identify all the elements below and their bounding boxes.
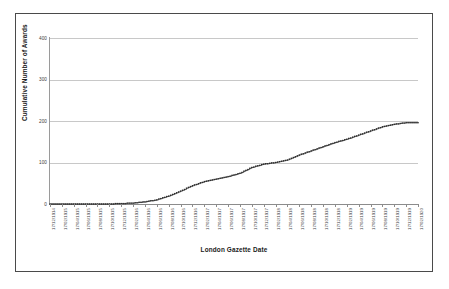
x-axis-tick — [133, 204, 134, 207]
x-axis-tick — [62, 204, 63, 207]
x-axis-tick — [192, 204, 193, 207]
x-axis-tick — [323, 204, 324, 207]
x-axis-tick — [371, 204, 372, 207]
x-axis-tick — [335, 204, 336, 207]
x-tick-label: 17/08/1918 — [313, 208, 318, 230]
x-tick-label: 17/04/1917 — [218, 208, 223, 230]
x-axis-tick — [121, 204, 122, 207]
x-tick-label: 17/02/1916 — [135, 208, 140, 230]
x-axis-tick — [228, 204, 229, 207]
x-tick-label: 17/02/1917 — [206, 208, 211, 230]
x-tick-label: 17/04/1915 — [76, 208, 81, 230]
x-tick-label: 17/10/1915 — [111, 208, 116, 230]
x-axis-tick — [204, 204, 205, 207]
x-tick-label: 17/06/1916 — [159, 208, 164, 230]
x-axis-tick — [418, 204, 419, 207]
x-tick-label: 17/10/1919 — [396, 208, 401, 230]
x-axis-tick — [299, 204, 300, 207]
x-axis-tick — [216, 204, 217, 207]
x-tick-label: 17/04/1919 — [360, 208, 365, 230]
x-axis-tick — [394, 204, 395, 207]
x-axis-tick — [347, 204, 348, 207]
x-axis-tick — [169, 204, 170, 207]
x-axis-tick — [97, 204, 98, 207]
x-axis-title: London Gazette Date — [50, 246, 418, 253]
x-tick-label: 17/04/1918 — [289, 208, 294, 230]
x-tick-label: 17/10/1918 — [325, 208, 330, 230]
x-tick-label: 17/06/1919 — [372, 208, 377, 230]
x-axis-tick — [264, 204, 265, 207]
x-axis-tick — [181, 204, 182, 207]
x-tick-label: 17/10/1916 — [182, 208, 187, 230]
x-axis-tick — [311, 204, 312, 207]
x-tick-label: 17/12/1915 — [123, 208, 128, 230]
x-tick-label: 17/02/1915 — [64, 208, 69, 230]
x-tick-label: 17/12/1917 — [265, 208, 270, 230]
x-tick-label: 17/08/1916 — [171, 208, 176, 230]
x-tick-label: 17/12/1919 — [408, 208, 413, 230]
x-axis-tick — [382, 204, 383, 207]
x-tick-label: 17/08/1917 — [242, 208, 247, 230]
x-tick-label: 17/08/1915 — [99, 208, 104, 230]
x-axis-tick — [157, 204, 158, 207]
x-tick-label: 17/12/1916 — [194, 208, 199, 230]
x-axis-tick — [287, 204, 288, 207]
x-tick-label: 17/12/1914 — [52, 208, 57, 230]
x-tick-label: 17/02/1920 — [420, 208, 425, 230]
x-axis-tick — [406, 204, 407, 207]
x-axis-tick — [74, 204, 75, 207]
chart-figure: 400 300 200 100 0 17/12/191417/02/191517… — [0, 0, 449, 289]
x-tick-label: 17/06/1918 — [301, 208, 306, 230]
y-axis-title: Cumulative Number of Awards — [21, 24, 28, 121]
x-axis-tick — [240, 204, 241, 207]
x-axis-tick — [109, 204, 110, 207]
x-tick-label: 17/08/1919 — [384, 208, 389, 230]
x-axis-tick — [86, 204, 87, 207]
x-tick-label: 17/06/1915 — [87, 208, 92, 230]
x-tick-label: 17/12/1918 — [337, 208, 342, 230]
x-tick-label: 17/02/1919 — [349, 208, 354, 230]
x-tick-label: 17/10/1917 — [254, 208, 259, 230]
x-axis-tick — [359, 204, 360, 207]
x-axis-tick — [252, 204, 253, 207]
x-tick-label: 17/04/1916 — [147, 208, 152, 230]
x-axis-tick — [145, 204, 146, 207]
x-axis-tick — [276, 204, 277, 207]
x-tick-label: 17/02/1918 — [277, 208, 282, 230]
x-axis-tick — [50, 204, 51, 207]
x-tick-label: 17/06/1917 — [230, 208, 235, 230]
